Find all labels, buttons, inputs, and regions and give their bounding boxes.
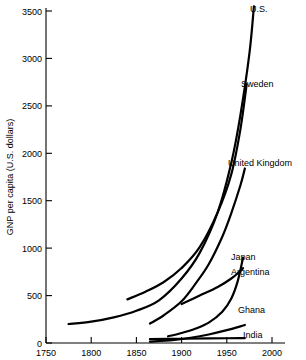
x-tick-label-2000: 2000 (262, 348, 282, 358)
y-tick-label-2500: 2500 (22, 101, 42, 111)
y-tick-label-3000: 3000 (22, 54, 42, 64)
y-tick-label-1500: 1500 (22, 196, 42, 206)
x-tick-label-1900: 1900 (172, 348, 192, 358)
series-label-india: India (243, 330, 263, 340)
series-label-argentina: Argentina (231, 267, 270, 277)
series-label-ghana: Ghana (238, 305, 265, 315)
y-tick-label-2000: 2000 (22, 149, 42, 159)
y-tick-label-0: 0 (37, 339, 42, 349)
x-tick-label-1850: 1850 (126, 348, 146, 358)
y-tick-label-1000: 1000 (22, 244, 42, 254)
x-tick-label-1750: 1750 (36, 348, 56, 358)
series-label-japan: Japan (231, 252, 256, 262)
y-tick-label-500: 500 (27, 291, 42, 301)
series-label-us: U.S. (250, 4, 268, 14)
series-label-united-kingdom: United Kingdom (228, 158, 292, 168)
x-tick-label-1800: 1800 (81, 348, 101, 358)
series-curve-india (150, 338, 245, 339)
gnp-per-capita-line-chart: 0 500 1000 1500 2000 2500 3000 3500 1750… (0, 0, 306, 360)
chart-svg: 0 500 1000 1500 2000 2500 3000 3500 1750… (0, 0, 306, 360)
y-tick-label-3500: 3500 (22, 7, 42, 17)
series-label-sweden: Sweden (241, 79, 274, 89)
y-axis-title: GNP per capita (U.S. dollars) (5, 119, 15, 235)
x-tick-label-1950: 1950 (217, 348, 237, 358)
